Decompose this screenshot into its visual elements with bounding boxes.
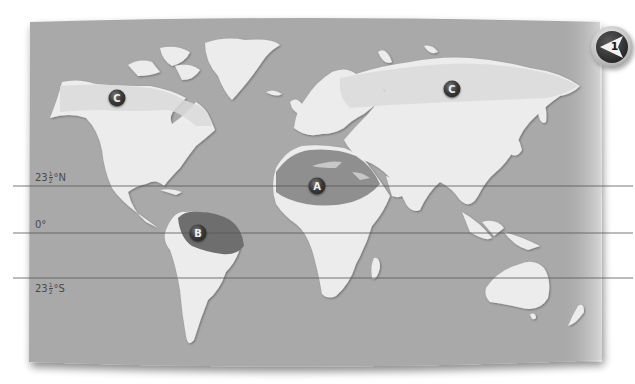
label-main: 23 [35,172,48,183]
label-main: 23 [35,283,48,294]
world-map: 2312°N 0° 2312°S A B C C 1 [0,0,635,384]
fraction-denominator: 2 [49,289,53,295]
label-suffix: °N [54,172,66,183]
fraction: 12 [49,171,53,184]
label-main: 0° [35,219,46,230]
label-tropic-of-cancer: 2312°N [35,171,66,184]
label-equator: 0° [35,219,46,230]
badge-number: 1 [596,31,628,63]
marker-c-north-america: C [109,90,126,107]
marker-a: A [309,178,326,195]
fraction-denominator: 2 [49,178,53,184]
marker-b: B [190,225,207,242]
left-arrow-badge-icon: 1 [591,26,633,68]
badge-inner: 1 [596,31,628,63]
label-tropic-of-capricorn: 2312°S [35,282,65,295]
label-suffix: °S [54,283,65,294]
marker-c-eurasia: C [444,81,461,98]
fraction: 12 [49,282,53,295]
